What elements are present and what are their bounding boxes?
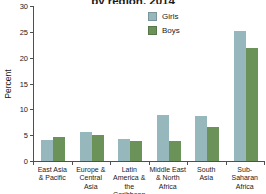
bar-girls — [234, 31, 246, 161]
x-tick-mark — [149, 162, 150, 165]
category-label: Middle East & North Africa — [149, 166, 188, 194]
y-tick-label: 10 — [2, 105, 28, 114]
category-label: Europe & Central Asia — [72, 166, 111, 194]
bar-boys — [207, 127, 219, 161]
x-tick-mark — [226, 162, 227, 165]
legend-swatch-girls — [148, 12, 157, 21]
bar-boys — [169, 141, 181, 161]
y-tick-label: 20 — [2, 54, 28, 63]
x-tick-mark — [72, 162, 73, 165]
legend-item: Girls — [148, 12, 180, 21]
bar-group — [188, 6, 227, 161]
legend: GirlsBoys — [148, 12, 180, 40]
bar-boys — [53, 137, 65, 161]
y-tick-label: 30 — [2, 2, 28, 11]
legend-swatch-boys — [148, 26, 157, 35]
legend-item: Boys — [148, 26, 180, 35]
bar-group — [34, 6, 73, 161]
x-axis-labels: East Asia & PacificEurope & Central Asia… — [33, 166, 264, 194]
x-tick-mark — [33, 162, 34, 165]
bar-girls — [195, 116, 207, 162]
category-label: East Asia & Pacific — [33, 166, 72, 194]
bar-group — [73, 6, 112, 161]
legend-label: Boys — [162, 26, 180, 35]
bar-boys — [246, 48, 258, 161]
bar-girls — [80, 132, 92, 161]
y-tick-label: 25 — [2, 28, 28, 37]
y-tick-label: 15 — [2, 80, 28, 89]
x-tick-mark — [187, 162, 188, 165]
y-tick-label: 0 — [2, 157, 28, 166]
bar-group — [227, 6, 266, 161]
bar-girls — [41, 140, 53, 161]
bar-boys — [92, 135, 104, 161]
bar-boys — [130, 141, 142, 161]
category-label: Latin America & the Caribbean — [110, 166, 149, 194]
bar-group — [111, 6, 150, 161]
bar-girls — [118, 139, 130, 161]
x-tick-mark — [110, 162, 111, 165]
x-tick-mark — [264, 162, 265, 165]
legend-label: Girls — [162, 12, 178, 21]
category-label: Sub-Saharan Africa — [226, 166, 265, 194]
chart-title-clipped: by region, 2014 — [0, 0, 266, 4]
bar-chart: by region, 2014 Percent 051015202530 Eas… — [0, 0, 266, 194]
chart-title-text: by region, 2014 — [91, 0, 175, 4]
category-label: South Asia — [187, 166, 226, 194]
bar-girls — [157, 115, 169, 162]
y-tick-label: 5 — [2, 131, 28, 140]
